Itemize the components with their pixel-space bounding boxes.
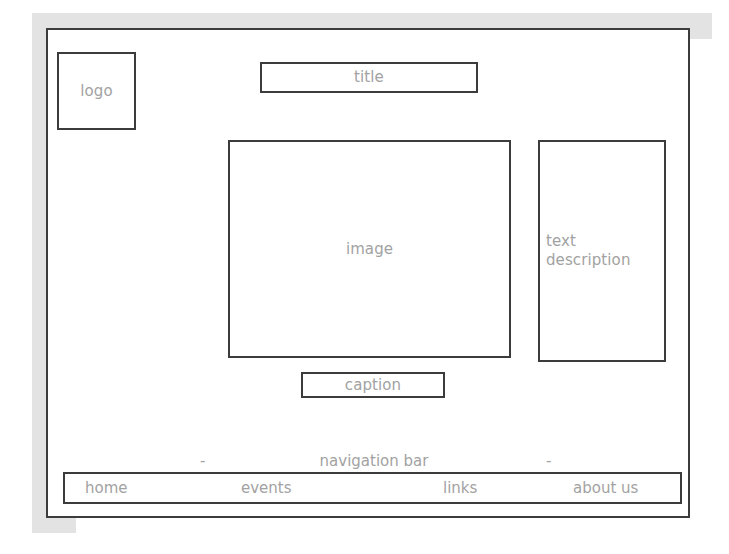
navigation-bar[interactable]: home events links about us [63,472,682,504]
navigation-annotation-dash-left: - [200,450,205,472]
wireframe-canvas: logo title image text description captio… [0,0,729,554]
nav-item-links[interactable]: links [443,474,477,502]
text-description-placeholder[interactable]: text description [538,140,666,362]
nav-item-home[interactable]: home [85,474,128,502]
nav-item-about-us[interactable]: about us [573,474,638,502]
title-label: title [354,68,384,87]
title-placeholder[interactable]: title [260,62,478,93]
text-description-label: text description [546,232,631,270]
logo-label: logo [80,82,112,101]
logo-placeholder[interactable]: logo [57,52,136,130]
image-label: image [346,240,393,259]
navigation-annotation-label: navigation bar [264,450,484,472]
image-placeholder[interactable]: image [228,140,511,358]
navigation-annotation-dash-right: - [546,450,551,472]
caption-placeholder[interactable]: caption [301,372,445,398]
navigation-bar-annotation: - navigation bar - [46,450,690,472]
nav-item-events[interactable]: events [241,474,292,502]
navigation-items: home events links about us [65,474,680,502]
caption-label: caption [345,376,401,395]
